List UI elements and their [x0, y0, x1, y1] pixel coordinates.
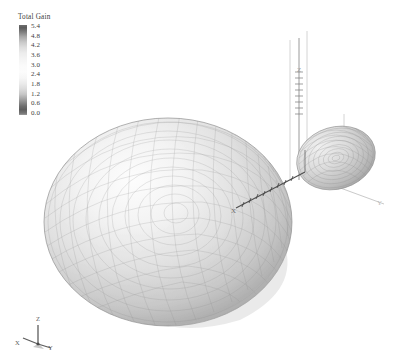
colorbar-tick: 4.2	[31, 42, 71, 49]
colorbar-tick-list: 5.4 4.8 4.2 3.6 3.0 2.4 1.8 1.2 0.6 0.0	[31, 23, 71, 117]
colorbar-tick: 1.8	[31, 81, 71, 88]
legend-title: Total Gain	[18, 12, 102, 22]
back-lobe	[289, 117, 384, 200]
axis-label-z: Z	[297, 66, 301, 74]
orientation-triad[interactable]: Z X Y	[14, 314, 58, 358]
colorbar-tick: 3.6	[31, 52, 71, 59]
radiation-pattern-viewport: Z Y X Total Gain 5.4 4.8 4.2 3.6 3.0 2.4…	[0, 0, 410, 360]
axis-label-y: Y	[377, 199, 382, 207]
colorbar-tick: 2.4	[31, 71, 71, 78]
triad-label-y: Y	[48, 344, 53, 351]
colorbar-legend[interactable]: Total Gain 5.4 4.8 4.2 3.6 3.0 2.4 1.8 1…	[16, 12, 102, 124]
colorbar-tick: 5.4	[31, 23, 71, 30]
colorbar-tick: 4.8	[31, 33, 71, 40]
triad-label-x: X	[15, 339, 20, 346]
triad-label-z: Z	[36, 315, 40, 322]
colorbar-tick: 3.0	[31, 62, 71, 69]
colorbar-tick: 0.6	[31, 100, 71, 107]
colorbar-gradient	[19, 25, 27, 115]
colorbar-tick: 0.0	[31, 110, 71, 117]
legend-body: 5.4 4.8 4.2 3.6 3.0 2.4 1.8 1.2 0.6 0.0	[16, 25, 102, 117]
colorbar-tick: 1.2	[31, 91, 71, 98]
axis-label-x: X	[231, 207, 236, 215]
